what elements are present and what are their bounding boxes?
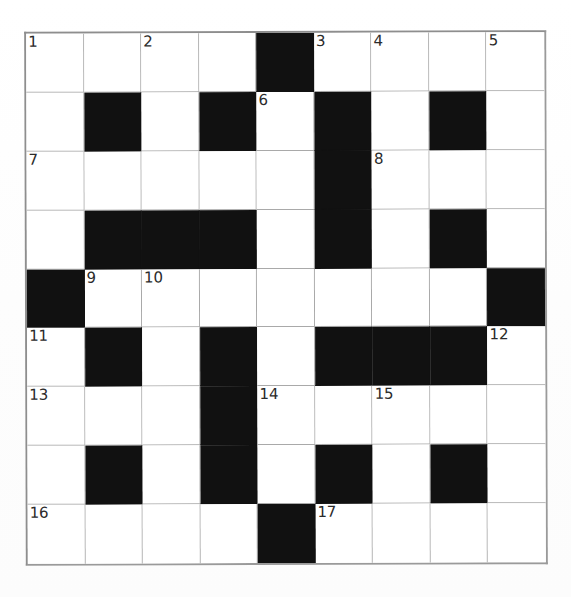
grid-cell[interactable] [143,445,201,504]
grid-cell[interactable]: 10 [142,269,200,328]
grid-cell[interactable] [430,268,488,327]
grid-cell[interactable]: 1 [26,34,84,93]
grid-block-cell [199,210,257,269]
grid-cell[interactable] [431,503,489,562]
grid-cell[interactable] [142,151,200,210]
grid-cell[interactable] [84,151,142,210]
grid-block-cell [314,92,372,151]
grid-cell[interactable] [488,386,546,445]
grid-block-cell [27,269,85,328]
grid-cell[interactable]: 7 [27,151,85,210]
cell-number: 4 [373,33,382,51]
grid-cell[interactable]: 2 [141,33,199,92]
grid-cell[interactable]: 15 [373,386,431,445]
grid-block-cell [142,210,200,269]
cell-number: 13 [29,387,48,405]
grid-block-cell [315,445,373,504]
grid-cell[interactable]: 6 [257,92,315,151]
grid-cell[interactable] [258,445,316,504]
cell-number: 15 [375,386,394,404]
grid-cell[interactable] [257,327,315,386]
cell-number: 7 [29,151,38,169]
cell-number: 11 [29,328,48,346]
grid-cell[interactable]: 9 [84,269,142,328]
grid-block-cell [487,268,545,327]
grid-cell[interactable] [27,210,85,269]
grid-cell[interactable]: 17 [315,504,373,563]
grid-cell[interactable] [487,91,545,150]
cell-number: 14 [259,386,278,404]
grid-cell[interactable] [200,269,258,328]
grid-cell[interactable] [257,210,315,269]
grid-cell[interactable] [372,209,430,268]
grid-block-cell [429,91,487,150]
grid-cell[interactable] [372,91,430,150]
grid-block-cell [256,33,314,92]
grid-cell[interactable]: 11 [27,328,85,387]
cell-number: 5 [489,32,498,50]
grid-cell[interactable] [84,33,142,92]
grid-cell[interactable] [257,268,315,327]
grid-block-cell [200,445,258,504]
cell-number: 17 [317,504,336,522]
grid-cell[interactable] [141,92,199,151]
grid-cell[interactable]: 14 [257,386,315,445]
grid-cell[interactable] [429,32,487,91]
grid-cell[interactable] [430,386,488,445]
grid-cell[interactable] [488,503,546,562]
grid-cell[interactable] [315,386,373,445]
cell-number: 8 [374,150,383,168]
grid-cell[interactable] [26,93,84,152]
grid-cell[interactable] [199,151,257,210]
cell-number: 10 [144,269,163,287]
grid-cell[interactable] [487,209,545,268]
grid-block-cell [372,327,430,386]
crossword-page: 1234567891011121314151617 [0,0,571,597]
grid-block-cell [200,386,258,445]
grid-block-cell [430,327,488,386]
grid-cell[interactable]: 5 [487,32,545,91]
grid-cell[interactable]: 16 [28,505,86,564]
grid-cell[interactable] [315,268,373,327]
grid-cell[interactable] [85,505,143,564]
grid-block-cell [85,328,143,387]
cell-number: 16 [30,505,49,523]
grid-block-cell [84,210,142,269]
grid-cell[interactable] [27,446,85,505]
cell-number: 1 [28,34,37,52]
grid-cell[interactable] [143,504,201,563]
grid-cell[interactable] [429,150,487,209]
grid-block-cell [199,92,257,151]
grid-block-cell [314,209,372,268]
grid-block-cell [258,504,316,563]
grid-block-cell [430,445,488,504]
grid-block-cell [314,150,372,209]
cell-number: 12 [490,327,509,345]
grid-block-cell [315,327,373,386]
grid-cell[interactable] [487,150,545,209]
grid-block-cell [200,328,258,387]
grid-cell[interactable] [373,445,431,504]
grid-cell[interactable] [257,151,315,210]
grid-cell[interactable]: 12 [488,327,546,386]
grid-cell[interactable] [85,387,143,446]
grid-cell[interactable] [199,33,257,92]
grid-cell[interactable] [488,444,546,503]
grid-cell[interactable]: 4 [371,33,429,92]
grid-cell[interactable] [373,504,431,563]
cell-number: 9 [86,269,95,287]
grid-cell[interactable] [372,268,430,327]
grid-block-cell [84,92,142,151]
cell-number: 3 [316,33,325,51]
grid-block-cell [85,446,143,505]
grid-cell[interactable] [142,328,200,387]
grid-cell[interactable] [142,387,200,446]
cell-number: 2 [143,33,152,51]
grid-cell[interactable]: 8 [372,150,430,209]
grid-cell[interactable]: 3 [314,33,372,92]
grid-cell[interactable]: 13 [27,387,85,446]
grid-cell[interactable] [200,504,258,563]
grid-block-cell [430,209,488,268]
cell-number: 6 [259,92,268,110]
crossword-grid[interactable]: 1234567891011121314151617 [24,30,548,566]
